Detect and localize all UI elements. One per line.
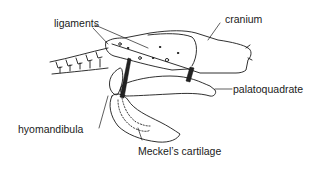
label-hyomandibula: hyomandibula [18,124,83,135]
leader-lines [93,23,232,140]
meckels-cartilage-shape [110,94,180,142]
anterior-ligament [120,58,131,98]
label-cranium: cranium [225,14,262,25]
label-meckels-cartilage: Meckel’s cartilage [138,146,221,157]
palatoquadrate-shape [120,76,215,96]
diagram-canvas: ligaments cranium palatoquadrate hyomand… [0,0,324,170]
vertebral-column [50,48,108,74]
label-palatoquadrate: palatoquadrate [233,84,303,95]
ligaments [120,58,194,98]
label-ligaments: ligaments [54,18,99,29]
